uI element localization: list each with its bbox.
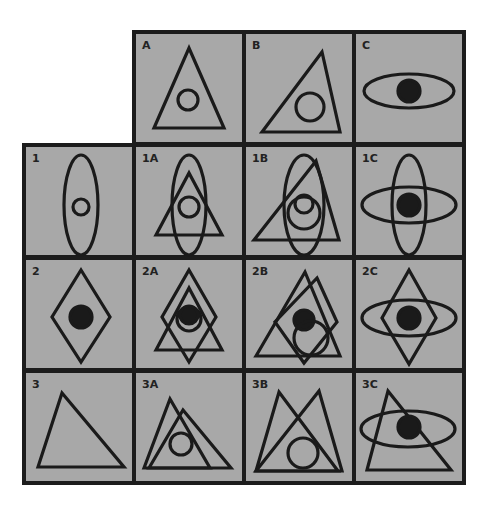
cell-2: 2 xyxy=(26,260,132,368)
cell-3c-label: 3C xyxy=(362,378,378,391)
cell-2c: 2C xyxy=(356,260,462,368)
cell-b-label: B xyxy=(252,39,260,52)
cell-3b: 3B xyxy=(246,373,352,481)
cell-2b: 2B xyxy=(246,260,352,368)
filled-dot-shape xyxy=(398,80,420,102)
filled-dot-shape xyxy=(398,416,420,438)
filled-dot-shape xyxy=(398,307,420,329)
cell-1-background xyxy=(26,147,132,255)
cell-b: B xyxy=(246,34,352,142)
cell-a: A xyxy=(136,34,242,142)
cell-1a-label: 1A xyxy=(142,152,159,165)
cell-b-background xyxy=(246,34,352,142)
filled-dot-shape xyxy=(70,306,92,328)
cell-1c-label: 1C xyxy=(362,152,378,165)
cell-1b: 1B xyxy=(246,147,352,255)
cell-3a-label: 3A xyxy=(142,378,159,391)
cell-3-label: 3 xyxy=(32,378,40,391)
filled-dot-shape xyxy=(398,194,420,216)
symbol-matrix-diagram: ABC11A1B1C22A2B2C33A3B3C xyxy=(0,0,491,511)
cell-1b-label: 1B xyxy=(252,152,268,165)
cell-2c-label: 2C xyxy=(362,265,378,278)
cell-c: C xyxy=(356,34,462,142)
filled-dot-shape xyxy=(180,306,198,324)
cell-a-label: A xyxy=(142,39,151,52)
cell-3a: 3A xyxy=(136,373,242,481)
cell-2a: 2A xyxy=(136,260,242,368)
cell-1c: 1C xyxy=(356,147,462,255)
cell-1a: 1A xyxy=(136,147,242,255)
cell-1: 1 xyxy=(26,147,132,255)
cell-3b-label: 3B xyxy=(252,378,268,391)
cell-2b-label: 2B xyxy=(252,265,268,278)
cell-1-label: 1 xyxy=(32,152,40,165)
cell-3c: 3C xyxy=(356,373,462,481)
cell-3-background xyxy=(26,373,132,481)
cell-2-label: 2 xyxy=(32,265,40,278)
cell-2a-label: 2A xyxy=(142,265,159,278)
cell-3: 3 xyxy=(26,373,132,481)
cell-c-label: C xyxy=(362,39,370,52)
